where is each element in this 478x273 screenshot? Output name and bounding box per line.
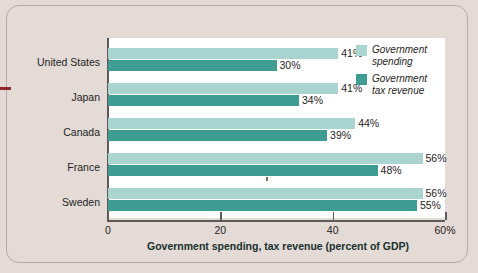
x-axis-tick-label: 0 bbox=[88, 224, 128, 236]
bar-value-label: 48% bbox=[381, 164, 402, 176]
bar-revenue bbox=[108, 165, 378, 176]
category-label: France bbox=[2, 161, 100, 173]
legend-label-spending-line2: spending bbox=[372, 56, 427, 68]
bar-revenue bbox=[108, 200, 417, 211]
legend-item-government-spending: Government spending bbox=[356, 44, 442, 67]
x-axis-tick-mark bbox=[445, 212, 447, 220]
legend-label-spending-line1: Government bbox=[372, 44, 427, 56]
bar-value-label: 56% bbox=[426, 187, 447, 199]
legend-item-government-tax-revenue: Government tax revenue bbox=[356, 73, 442, 96]
margin-dash-marker bbox=[0, 87, 11, 90]
bar-spending bbox=[108, 83, 338, 94]
category-label: United States bbox=[2, 56, 100, 68]
legend-swatch-spending bbox=[356, 45, 367, 56]
legend-swatch-revenue bbox=[356, 74, 367, 85]
bar-value-label: 55% bbox=[420, 199, 441, 211]
category-label: Sweden bbox=[2, 196, 100, 208]
figure-page: 41%30%41%34%44%39%56%48%56%55% United St… bbox=[0, 0, 478, 273]
bar-value-label: 56% bbox=[426, 152, 447, 164]
chart-legend: Government spending Government tax reven… bbox=[356, 44, 442, 102]
x-axis-tick-label: 40 bbox=[313, 224, 353, 236]
bar-revenue bbox=[108, 60, 277, 71]
x-axis-title: Government spending, tax revenue (percen… bbox=[108, 240, 448, 252]
x-axis-line bbox=[107, 220, 445, 222]
legend-label-spending: Government spending bbox=[372, 44, 427, 67]
bar-value-label: 44% bbox=[358, 117, 379, 129]
x-axis-tick-mark bbox=[220, 212, 222, 220]
x-axis-tick-label: 20 bbox=[200, 224, 240, 236]
legend-label-revenue-line2: tax revenue bbox=[372, 85, 427, 97]
legend-label-revenue-line1: Government bbox=[372, 73, 427, 85]
bar-revenue bbox=[108, 130, 327, 141]
print-speck-artifact bbox=[266, 177, 268, 181]
x-axis-tick-label: 60% bbox=[425, 224, 465, 236]
bar-spending bbox=[108, 188, 423, 199]
bar-value-label: 34% bbox=[302, 94, 323, 106]
bar-spending bbox=[108, 153, 423, 164]
legend-label-revenue: Government tax revenue bbox=[372, 73, 427, 96]
bar-spending bbox=[108, 118, 355, 129]
x-axis-tick-mark bbox=[333, 212, 335, 220]
bar-value-label: 30% bbox=[280, 59, 301, 71]
bar-value-label: 39% bbox=[330, 129, 351, 141]
category-label: Japan bbox=[2, 91, 100, 103]
category-label: Canada bbox=[2, 126, 100, 138]
bar-spending bbox=[108, 48, 338, 59]
bar-revenue bbox=[108, 95, 299, 106]
